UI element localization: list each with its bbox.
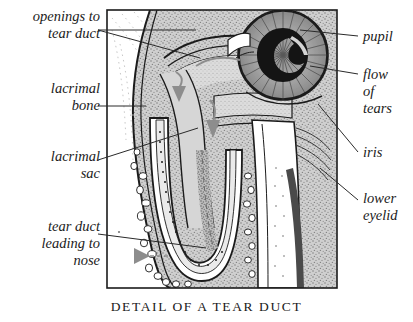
label-lacrimal-bone: lacrimal bone: [4, 80, 100, 114]
label-flow-of-tears: flow of tears: [363, 66, 411, 117]
label-lacrimal-sac: lacrimal sac: [4, 148, 100, 182]
label-tear-duct-leading-to-nose: tear duct leading to nose: [4, 218, 100, 269]
label-iris: iris: [363, 144, 411, 161]
illustration-body: [107, 10, 337, 288]
figure-caption: DETAIL OF A TEAR DUCT: [0, 299, 413, 315]
label-pupil: pupil: [363, 28, 411, 45]
label-openings-to-tear-duct: openings to tear duct: [4, 8, 100, 42]
label-lower-eyelid: lower eyelid: [363, 190, 411, 224]
tear-duct-figure: openings to tear duct lacrimal bone lacr…: [0, 0, 413, 322]
